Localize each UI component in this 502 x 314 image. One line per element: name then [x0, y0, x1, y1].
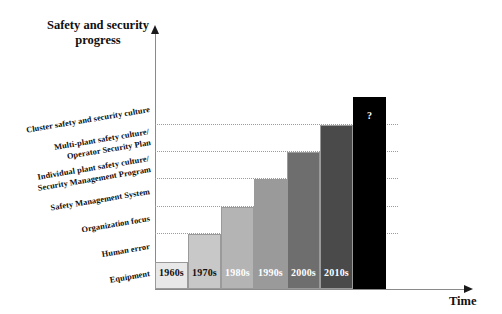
bar-1970s: 1970s	[188, 234, 221, 289]
bar-1980s: 1980s	[221, 207, 254, 289]
bar-1960s: 1960s	[155, 262, 188, 289]
bar-label: 2000s	[288, 267, 319, 278]
safety-security-progress-chart: Safety and security progress Time Cluste…	[0, 0, 502, 314]
bar-label: 2010s	[321, 267, 352, 278]
bar-label: ?	[354, 110, 385, 121]
bar-future: ?	[353, 97, 386, 289]
bar-label: 1960s	[156, 267, 187, 278]
bar-1990s: 1990s	[254, 179, 287, 289]
bar-label: 1970s	[189, 267, 220, 278]
x-axis-arrow-icon	[464, 285, 473, 293]
y-tick-label: Organization focus	[1, 214, 151, 249]
bar-2010s: 2010s	[320, 125, 353, 289]
bar-2000s: 2000s	[287, 152, 320, 289]
bar-label: 1990s	[255, 267, 286, 278]
bar-label: 1980s	[222, 267, 253, 278]
bar-series: 1960s1970s1980s1990s2000s2010s?	[155, 0, 386, 289]
page-title: Safety and security progress	[28, 18, 168, 48]
x-axis-label: Time	[449, 294, 477, 309]
y-tick-label: Equipment	[1, 269, 151, 304]
